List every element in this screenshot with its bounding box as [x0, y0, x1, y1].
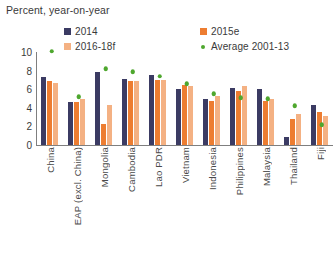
bar-group	[176, 52, 193, 145]
y-axis-tick-6: 6	[26, 84, 32, 95]
average-marker	[76, 94, 81, 99]
bar-group	[284, 52, 301, 145]
average-marker	[49, 49, 54, 54]
bar	[74, 102, 79, 145]
bar	[317, 112, 322, 145]
legend-label-2014: 2014	[75, 26, 98, 37]
bar	[134, 81, 139, 145]
average-marker	[292, 104, 297, 109]
legend-label-2016-18f: 2016-18f	[75, 41, 115, 52]
bar	[215, 96, 220, 145]
bar	[290, 119, 295, 145]
bar-group	[122, 52, 139, 145]
bar-group	[41, 52, 58, 145]
bar	[47, 81, 52, 145]
y-axis-tick-10: 10	[21, 47, 32, 58]
legend-label-average: Average 2001-13	[211, 41, 289, 52]
legend-item-average[interactable]: Average 2001-13	[200, 41, 289, 52]
legend-label-2015e: 2015e	[211, 26, 239, 37]
chart-figure: Percent, year-on-year 2014 2015e 2016-18…	[0, 0, 333, 262]
x-axis-label: China	[45, 147, 56, 173]
bar-group	[203, 52, 220, 145]
average-marker	[211, 92, 216, 97]
bar	[269, 99, 274, 145]
bar	[176, 89, 181, 145]
legend-swatch-2014	[64, 28, 71, 35]
bar	[101, 124, 106, 145]
bar	[161, 80, 166, 145]
bar	[107, 105, 112, 145]
x-axis-label: Malaysia	[261, 147, 272, 186]
bar	[80, 99, 85, 145]
legend-swatch-average	[201, 45, 205, 49]
bar	[257, 89, 262, 145]
bar	[263, 101, 268, 145]
legend-item-2016-18f[interactable]: 2016-18f	[64, 41, 115, 52]
bar	[209, 101, 214, 145]
bar	[323, 116, 328, 145]
y-axis-line	[36, 52, 37, 145]
bar	[230, 88, 235, 145]
x-axis-label: Cambodia	[126, 147, 137, 192]
plot-area: 1086420	[36, 52, 333, 145]
x-axis-label: Mongolia	[99, 147, 110, 187]
chart-title: Percent, year-on-year	[6, 4, 110, 16]
bar	[68, 102, 73, 145]
average-marker	[238, 95, 243, 100]
average-marker	[157, 74, 162, 79]
x-axis-label: Lao PDR	[153, 147, 164, 187]
x-axis-label: EAP (excl. China)	[72, 147, 83, 225]
bar	[53, 83, 58, 145]
bar	[122, 79, 127, 145]
bar	[188, 86, 193, 145]
legend-swatch-2015e	[200, 28, 207, 35]
bar	[149, 75, 154, 145]
x-axis-label: Indonesia	[207, 147, 218, 190]
x-axis-label: Philippines	[234, 147, 245, 195]
bar	[203, 99, 208, 146]
y-axis-tick-4: 4	[26, 102, 32, 113]
y-axis-tick-8: 8	[26, 65, 32, 76]
bar-group	[149, 52, 166, 145]
y-axis-tick-2: 2	[26, 121, 32, 132]
bar	[128, 81, 133, 145]
x-axis-label: Fiji	[315, 147, 326, 160]
bar	[296, 114, 301, 145]
average-marker	[319, 122, 324, 127]
average-marker	[103, 67, 108, 72]
legend-swatch-2016-18f	[64, 43, 71, 50]
bar	[155, 80, 160, 145]
x-axis-label: Thailand	[288, 147, 299, 185]
average-marker	[265, 96, 270, 101]
x-axis-label: Vietnam	[180, 147, 191, 183]
bar	[182, 85, 187, 145]
bar	[95, 72, 100, 145]
legend-item-2015e[interactable]: 2015e	[200, 26, 239, 37]
bar	[311, 105, 316, 145]
average-marker	[184, 81, 189, 86]
legend-item-2014[interactable]: 2014	[64, 26, 98, 37]
y-axis-tick-0: 0	[26, 140, 32, 151]
bar-group	[311, 52, 328, 145]
average-marker	[130, 69, 135, 74]
bar	[41, 77, 46, 145]
bar	[284, 137, 289, 145]
x-axis-labels: ChinaEAP (excl. China)MongoliaCambodiaLa…	[36, 147, 333, 259]
